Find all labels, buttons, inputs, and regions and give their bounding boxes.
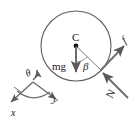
label-theta-angle: θ <box>24 67 33 79</box>
diagram-canvas: C mg β f N θ x y <box>0 0 138 121</box>
friction-vector <box>101 46 124 70</box>
free-body-diagram-figure: C mg β f N θ x y <box>0 0 138 121</box>
label-normal-N: N <box>103 87 117 100</box>
theta-spin-arrow <box>33 70 37 80</box>
contact-radius-line <box>76 46 102 71</box>
label-x-axis: x <box>10 107 16 118</box>
y-axis-line <box>33 82 56 99</box>
label-weight-mg: mg <box>52 60 67 72</box>
label-friction-f: f <box>119 33 130 46</box>
label-beta-angle: β <box>82 60 89 72</box>
x-axis-line <box>11 82 33 102</box>
label-center-C: C <box>72 31 79 43</box>
